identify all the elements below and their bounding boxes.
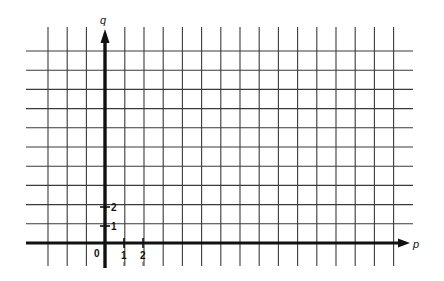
coordinate-grid: q p 0 1 2 1 2 — [0, 0, 444, 281]
q-axis — [101, 29, 110, 268]
p-axis — [26, 239, 410, 248]
q-axis-arrow-icon — [101, 29, 110, 43]
y-tick-label-2: 2 — [111, 202, 117, 213]
q-axis-label: q — [100, 14, 107, 26]
x-tick-label-2: 2 — [140, 250, 146, 261]
p-axis-arrow-icon — [398, 239, 410, 248]
x-tick-label-1: 1 — [121, 250, 127, 261]
origin-label: 0 — [94, 248, 100, 259]
y-tick-label-1: 1 — [111, 221, 117, 232]
grid-lines — [26, 27, 413, 266]
tick-dashes — [124, 262, 143, 266]
p-axis-label: p — [412, 238, 419, 250]
